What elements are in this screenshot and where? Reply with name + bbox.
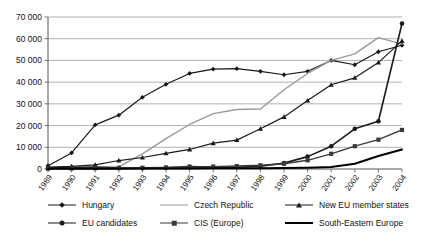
legend-line-swatch (160, 205, 188, 206)
svg-text:1996: 1996 (202, 173, 220, 193)
legend-label-new-eu-member-states: New EU member states (319, 201, 409, 210)
legend-item-czech-republic[interactable]: Czech Republic (160, 196, 285, 214)
legend-item-south-eastern-europe[interactable]: South-Eastern Europe (285, 214, 422, 232)
svg-text:1994: 1994 (155, 173, 173, 193)
legend-label-south-eastern-europe: South-Eastern Europe (319, 219, 403, 228)
series-hungary (46, 43, 405, 168)
legend-marker-circle (60, 221, 65, 226)
legend-label-cis-europe: CIS (Europe) (194, 219, 244, 228)
svg-text:1991: 1991 (84, 173, 102, 193)
svg-text:2004: 2004 (391, 173, 409, 193)
legend-swatch-hungary (48, 200, 76, 210)
legend-label-hungary: Hungary (82, 201, 114, 210)
svg-text:1997: 1997 (225, 173, 243, 193)
svg-text:40 000: 40 000 (16, 77, 42, 87)
svg-text:1990: 1990 (60, 173, 78, 193)
svg-text:70 000: 70 000 (16, 12, 42, 22)
legend-swatch-czech-republic (160, 200, 188, 210)
legend-item-new-eu-member-states[interactable]: New EU member states (285, 196, 422, 214)
legend-marker-triangle (296, 203, 302, 208)
legend-swatch-cis-europe (160, 218, 188, 228)
legend-line-swatch (285, 222, 313, 224)
legend-label-eu-candidates: EU candidates (82, 219, 137, 228)
legend-item-hungary[interactable]: Hungary (0, 196, 160, 214)
legend-swatch-new-eu-member-states (285, 200, 313, 210)
y-axis-tick-labels: 010 00020 00030 00040 00050 00060 00070 … (16, 12, 42, 174)
svg-text:60 000: 60 000 (16, 34, 42, 44)
legend-row-2: EU candidates CIS (Europe) South-Eastern… (0, 214, 422, 232)
svg-text:2000: 2000 (296, 173, 314, 193)
legend-item-cis-europe[interactable]: CIS (Europe) (160, 214, 285, 232)
legend-swatch-south-eastern-europe (285, 218, 313, 228)
legend-item-eu-candidates[interactable]: EU candidates (0, 214, 160, 232)
axis-lines (48, 17, 402, 169)
svg-text:1993: 1993 (131, 173, 149, 193)
y-axis-ticks (45, 17, 49, 169)
legend-label-czech-republic: Czech Republic (194, 201, 254, 210)
svg-text:2002: 2002 (343, 173, 361, 193)
svg-text:2001: 2001 (320, 173, 338, 193)
chart-legend: Hungary Czech Republic New EU member sta… (0, 196, 422, 238)
data-series-group (45, 21, 404, 171)
svg-text:30 000: 30 000 (16, 99, 42, 109)
legend-row-1: Hungary Czech Republic New EU member sta… (0, 196, 422, 214)
chart-container: 010 00020 00030 00040 00050 00060 00070 … (0, 0, 422, 245)
svg-text:0: 0 (37, 164, 42, 174)
svg-text:20 000: 20 000 (16, 121, 42, 131)
legend-marker-diamond (59, 202, 65, 208)
x-axis-tick-labels: 1989199019911992199319941995199619971998… (37, 173, 409, 193)
svg-text:10 000: 10 000 (16, 142, 42, 152)
svg-text:1989: 1989 (37, 173, 55, 193)
gridlines (48, 17, 402, 147)
svg-text:1992: 1992 (107, 173, 125, 193)
legend-swatch-eu-candidates (48, 218, 76, 228)
svg-text:50 000: 50 000 (16, 55, 42, 65)
svg-text:1995: 1995 (178, 173, 196, 193)
svg-text:1999: 1999 (273, 173, 291, 193)
svg-text:1998: 1998 (249, 173, 267, 193)
legend-marker-square (172, 221, 177, 226)
svg-text:2003: 2003 (367, 173, 385, 193)
series-czech-republic (48, 38, 402, 169)
